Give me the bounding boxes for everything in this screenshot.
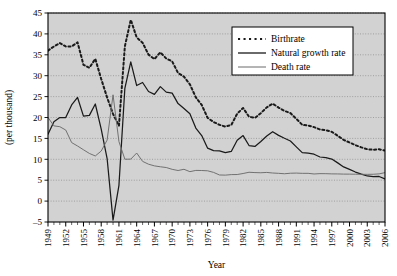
x-tick-label: 1997 bbox=[327, 229, 337, 248]
y-tick-label: 45 bbox=[33, 8, 43, 18]
x-tick-label: 1988 bbox=[274, 229, 284, 248]
y-axis-title: (per thousand) bbox=[4, 90, 15, 145]
legend-label-birthrate: Birthrate bbox=[271, 34, 305, 44]
y-tick-label: –5 bbox=[32, 217, 43, 227]
x-tick-label: 1952 bbox=[61, 229, 71, 247]
legend-label-death-rate: Death rate bbox=[271, 62, 310, 72]
y-tick-label: 5 bbox=[38, 175, 43, 185]
x-tick-label: 1949 bbox=[43, 229, 53, 248]
y-tick-label: 0 bbox=[38, 196, 43, 206]
x-tick-label: 2003 bbox=[362, 229, 372, 248]
x-tick-label: 2006 bbox=[380, 229, 390, 248]
y-tick-label: 35 bbox=[33, 50, 43, 60]
y-tick-label: 25 bbox=[33, 92, 43, 102]
legend-label-natural-growth-rate: Natural growth rate bbox=[271, 48, 345, 58]
x-tick-label: 1979 bbox=[221, 229, 231, 248]
y-tick-label: 20 bbox=[33, 113, 43, 123]
chart-legend: BirthrateNatural growth rateDeath rate bbox=[232, 27, 353, 75]
x-tick-label: 1967 bbox=[150, 229, 160, 248]
x-tick-label: 1964 bbox=[132, 229, 142, 248]
y-tick-label: 40 bbox=[33, 29, 43, 39]
x-axis-title: Year bbox=[208, 260, 226, 270]
x-tick-label: 1973 bbox=[185, 229, 195, 248]
x-tick-label: 1985 bbox=[256, 229, 266, 248]
demographic-rates-line-chart: –5051015202530354045 1949195219551958196… bbox=[0, 0, 397, 276]
x-tick-label: 1955 bbox=[79, 229, 89, 248]
chart-container: –5051015202530354045 1949195219551958196… bbox=[0, 0, 397, 276]
x-tick-label: 2000 bbox=[345, 229, 355, 248]
x-tick-label: 1994 bbox=[309, 229, 319, 248]
x-tick-label: 1970 bbox=[167, 229, 177, 248]
y-tick-label: 10 bbox=[33, 155, 43, 165]
x-tick-label: 1958 bbox=[96, 229, 106, 248]
x-tick-label: 1976 bbox=[203, 229, 213, 248]
y-tick-label: 15 bbox=[33, 134, 43, 144]
x-tick-label: 1991 bbox=[292, 229, 302, 247]
x-tick-label: 1961 bbox=[114, 229, 124, 247]
y-tick-label: 30 bbox=[33, 71, 43, 81]
x-tick-label: 1982 bbox=[238, 229, 248, 247]
